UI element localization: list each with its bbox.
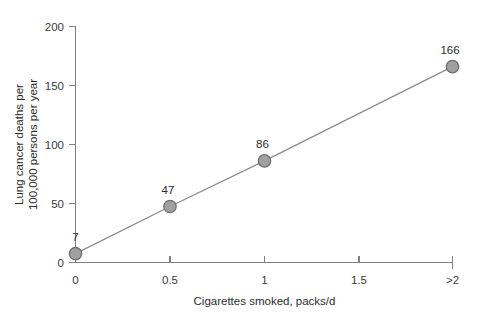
x-axis-ticks bbox=[76, 256, 453, 263]
data-point-0 bbox=[69, 248, 81, 260]
data-point-label-3: 166 bbox=[440, 44, 459, 56]
data-point-labels: 7 47 86 166 bbox=[72, 44, 459, 243]
y-axis-title: Lung cancer deaths per 100,000 persons p… bbox=[13, 79, 39, 210]
chart-figure: 0 50 100 150 200 0 0.5 1 1.5 >2 7 47 86 bbox=[0, 0, 479, 316]
x-tick-label-1: 1 bbox=[261, 274, 267, 286]
y-axis-ticks bbox=[69, 27, 76, 263]
x-tick-label-0: 0 bbox=[72, 274, 78, 286]
y-axis-title-line-1: Lung cancer deaths per bbox=[13, 84, 25, 205]
x-tick-label-gt2: >2 bbox=[446, 274, 459, 286]
data-point-label-0: 7 bbox=[72, 231, 78, 243]
lung-cancer-line-chart: 0 50 100 150 200 0 0.5 1 1.5 >2 7 47 86 bbox=[0, 0, 479, 316]
data-point-markers bbox=[69, 60, 458, 260]
y-tick-label-100: 100 bbox=[45, 139, 64, 151]
data-point-1 bbox=[164, 200, 176, 212]
y-tick-labels: 0 50 100 150 200 bbox=[45, 21, 64, 269]
y-tick-label-50: 50 bbox=[51, 198, 64, 210]
x-axis-title: Cigarettes smoked, packs/d bbox=[194, 295, 336, 307]
data-point-2 bbox=[258, 155, 270, 167]
data-point-label-2: 86 bbox=[256, 138, 269, 150]
data-point-3 bbox=[446, 60, 458, 72]
data-point-label-1: 47 bbox=[162, 184, 175, 196]
x-tick-label-1.5: 1.5 bbox=[351, 274, 367, 286]
y-axis-title-line-2: 100,000 persons per year bbox=[27, 79, 39, 210]
y-tick-label-150: 150 bbox=[45, 80, 64, 92]
y-tick-label-200: 200 bbox=[45, 21, 64, 33]
y-tick-label-0: 0 bbox=[58, 257, 64, 269]
x-tick-label-0.5: 0.5 bbox=[162, 274, 178, 286]
x-tick-labels: 0 0.5 1 1.5 >2 bbox=[72, 274, 459, 286]
